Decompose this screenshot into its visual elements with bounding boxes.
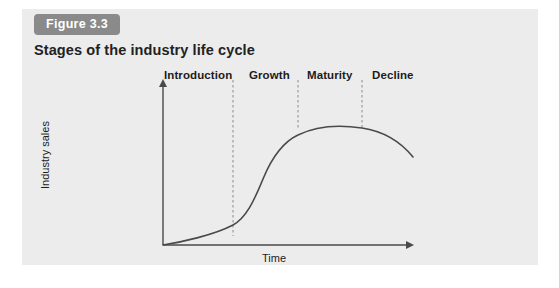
life-cycle-curve-svg [22, 9, 538, 265]
y-axis-label: Industry sales [39, 110, 51, 200]
industry-sales-curve [163, 126, 413, 245]
x-axis-label: Time [262, 252, 286, 264]
chart-area: Introduction Growth Maturity Decline Ind… [22, 9, 538, 265]
stage-label-decline: Decline [372, 69, 414, 81]
stage-label-growth: Growth [249, 69, 290, 81]
figure-panel: Figure 3.3 Stages of the industry life c… [22, 9, 538, 265]
stage-label-maturity: Maturity [307, 69, 353, 81]
stage-label-introduction: Introduction [164, 69, 232, 81]
